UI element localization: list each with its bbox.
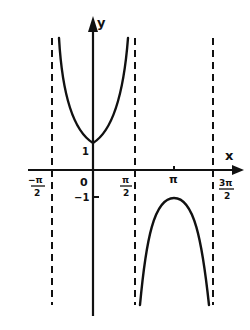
svg-text:2: 2 — [224, 191, 230, 201]
x-tick-label-neg-half-pi: −π 2 — [28, 175, 45, 198]
secant-graph: y x 1 −1 −π 2 0 π 2 π 3π 2 — [0, 0, 250, 330]
y-tick-label-neg-one: −1 — [74, 192, 89, 203]
x-tick-label-pi: π — [169, 173, 178, 186]
svg-text:−π: −π — [28, 175, 43, 185]
x-axis-arrow-icon — [232, 165, 244, 175]
svg-text:π: π — [122, 175, 129, 185]
x-tick-label-half-pi: π 2 — [120, 175, 132, 198]
lower-branch — [140, 198, 209, 305]
x-tick-label-zero: 0 — [80, 176, 88, 189]
svg-text:3π: 3π — [219, 178, 232, 188]
y-axis — [88, 16, 99, 316]
svg-text:2: 2 — [123, 188, 129, 198]
x-tick-label-three-half-pi: 3π 2 — [219, 178, 234, 201]
asymptotes — [52, 38, 213, 305]
y-axis-label: y — [97, 15, 106, 30]
svg-text:2: 2 — [34, 188, 40, 198]
x-axis-label: x — [225, 148, 234, 163]
y-tick-label-one: 1 — [82, 146, 89, 157]
